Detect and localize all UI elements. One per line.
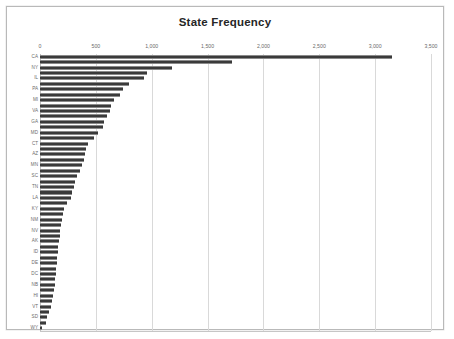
- bar: [40, 93, 120, 97]
- y-tick-label: AK: [32, 239, 38, 244]
- bar: [40, 201, 67, 205]
- x-tick-label: 0: [39, 43, 42, 49]
- gridline-3500: [431, 54, 432, 331]
- bar: [40, 212, 63, 216]
- bar: [40, 256, 57, 260]
- bar: [40, 142, 88, 146]
- bar: [40, 114, 107, 118]
- bar: [40, 163, 82, 167]
- bar: [40, 223, 61, 227]
- bar: [40, 283, 55, 287]
- bar: [40, 288, 54, 292]
- bar: [40, 190, 72, 194]
- bar: [40, 109, 110, 113]
- y-tick-label: SC: [32, 174, 38, 179]
- bar: [40, 60, 232, 64]
- bar: [40, 250, 58, 254]
- y-tick-label: NM: [31, 217, 38, 222]
- bar: [40, 120, 104, 124]
- x-tick-label: 3,000: [369, 43, 382, 49]
- y-tick-label: WY: [31, 326, 38, 331]
- y-axis-tick-labels: CANYILPAMIVAGAMDCTAZMNSCTNLAKYNMNVAKIDDE…: [17, 54, 38, 331]
- bar: [40, 169, 80, 173]
- chart-title: State Frequency: [7, 16, 443, 28]
- bar: [40, 294, 53, 298]
- bar: [40, 299, 52, 303]
- bar: [40, 229, 60, 233]
- x-tick-label: 1,500: [201, 43, 214, 49]
- bar: [40, 315, 47, 319]
- bar: [40, 218, 62, 222]
- x-tick-label: 3,500: [425, 43, 438, 49]
- bar: [40, 82, 129, 86]
- bar: [40, 305, 51, 309]
- y-tick-label: DE: [32, 261, 38, 266]
- y-tick-label: SD: [32, 315, 38, 320]
- y-tick-label: GA: [31, 120, 38, 125]
- bar: [40, 207, 64, 211]
- bar: [40, 87, 123, 91]
- bar: [40, 125, 103, 129]
- plot-area: [40, 54, 431, 331]
- bar: [40, 174, 77, 178]
- y-tick-label: AZ: [32, 152, 38, 157]
- bar: [40, 180, 75, 184]
- bar: [40, 310, 49, 314]
- x-tick-label: 2,500: [313, 43, 326, 49]
- x-tick-label: 500: [92, 43, 101, 49]
- y-tick-label: NY: [32, 65, 38, 70]
- y-tick-label: NV: [32, 228, 38, 233]
- bar: [40, 66, 172, 70]
- y-tick-label: LA: [32, 196, 38, 201]
- x-axis-tick-labels: 05001,0001,5002,0002,5003,0003,500: [40, 43, 431, 54]
- bar: [40, 261, 57, 265]
- bar: [40, 196, 71, 200]
- bar: [40, 76, 144, 80]
- y-tick-label: MI: [33, 98, 38, 103]
- y-tick-label: MD: [31, 130, 38, 135]
- y-tick-label: HI: [33, 293, 38, 298]
- y-tick-label: DC: [31, 272, 38, 277]
- x-tick-label: 1,000: [145, 43, 158, 49]
- bar: [40, 234, 60, 238]
- y-tick-label: PA: [32, 87, 38, 92]
- y-tick-label: ID: [33, 250, 38, 255]
- x-tick-label: 2,000: [257, 43, 270, 49]
- x-axis-baseline: [40, 331, 431, 332]
- bar: [40, 104, 111, 108]
- bar: [40, 98, 114, 102]
- bar: [40, 267, 56, 271]
- y-tick-label: VA: [32, 109, 38, 114]
- bar: [40, 272, 56, 276]
- bar-series: [40, 54, 431, 331]
- bar: [40, 131, 98, 135]
- bar: [40, 136, 94, 140]
- chart-frame: State Frequency 05001,0001,5002,0002,500…: [6, 6, 444, 330]
- y-tick-label: MN: [31, 163, 38, 168]
- bar: [40, 152, 85, 156]
- bar: [40, 158, 84, 162]
- bar: [40, 185, 74, 189]
- y-tick-label: TN: [32, 185, 38, 190]
- y-tick-label: CT: [32, 141, 38, 146]
- bar: [40, 147, 86, 151]
- bar: [40, 55, 392, 59]
- bar: [40, 321, 46, 325]
- bar: [40, 245, 58, 249]
- y-tick-label: NB: [32, 283, 38, 288]
- bar: [40, 277, 55, 281]
- bar: [40, 71, 147, 75]
- y-tick-label: CA: [32, 54, 38, 59]
- bar: [40, 326, 42, 330]
- bar: [40, 239, 59, 243]
- y-tick-label: IL: [34, 76, 38, 81]
- y-tick-label: KY: [32, 206, 38, 211]
- y-tick-label: VT: [32, 304, 38, 309]
